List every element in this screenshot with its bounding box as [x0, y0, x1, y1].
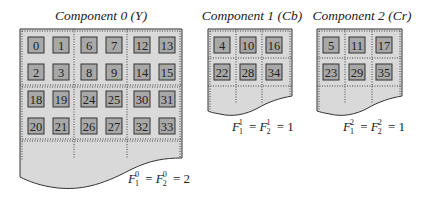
data-unit-label: 6 [86, 39, 92, 53]
data-unit-label: 24 [83, 93, 96, 107]
component-1-equation: F11 = F21 = 1 [231, 118, 294, 136]
data-unit-label: 34 [268, 66, 281, 80]
component-0-equation: F10 = F20 = 2 [127, 170, 190, 188]
data-unit-label: 30 [136, 93, 149, 107]
data-unit-label: 16 [268, 39, 281, 53]
data-unit-label: 28 [242, 66, 255, 80]
data-unit-label: 17 [378, 39, 391, 53]
data-unit-label: 14 [136, 66, 149, 80]
data-unit-label: 35 [378, 66, 391, 80]
data-unit-label: 20 [30, 120, 43, 134]
component-2: Component 2 (Cr) 51117232935 F12 = F22 =… [313, 8, 413, 136]
data-unit-label: 21 [55, 120, 68, 134]
data-unit-label: 25 [108, 93, 121, 107]
data-unit-label: 15 [161, 66, 174, 80]
component-0: Component 0 (Y) 016712132389141518192425… [20, 8, 190, 188]
data-unit-label: 13 [161, 39, 174, 53]
data-unit-label: 18 [30, 93, 43, 107]
component-0-title: Component 0 (Y) [55, 8, 148, 23]
data-unit-label: 19 [55, 93, 68, 107]
data-unit-label: 11 [351, 39, 363, 53]
data-unit-label: 23 [325, 66, 338, 80]
data-unit-label: 10 [242, 39, 255, 53]
component-diagram: Component 0 (Y) 016712132389141518192425… [0, 0, 425, 202]
data-unit-label: 32 [136, 120, 149, 134]
component-2-equation: F12 = F22 = 1 [342, 118, 405, 136]
component-1-title: Component 1 (Cb) [202, 8, 303, 23]
data-unit-label: 2 [33, 66, 39, 80]
data-unit-label: 0 [33, 39, 39, 53]
data-unit-label: 7 [111, 39, 117, 53]
component-2-title: Component 2 (Cr) [313, 8, 413, 23]
data-unit-label: 29 [351, 66, 364, 80]
data-unit-label: 26 [83, 120, 96, 134]
component-1: Component 1 (Cb) 41016222834 F11 = F21 =… [202, 8, 303, 136]
data-unit-label: 27 [108, 120, 121, 134]
data-unit-label: 1 [58, 39, 64, 53]
data-unit-label: 22 [216, 66, 229, 80]
data-unit-label: 12 [136, 39, 149, 53]
data-unit-label: 31 [161, 93, 174, 107]
data-unit-label: 5 [328, 39, 334, 53]
data-unit-label: 3 [58, 66, 64, 80]
data-unit-label: 4 [219, 39, 226, 53]
data-unit-label: 9 [111, 66, 117, 80]
data-unit-label: 33 [161, 120, 174, 134]
data-unit-label: 8 [86, 66, 92, 80]
